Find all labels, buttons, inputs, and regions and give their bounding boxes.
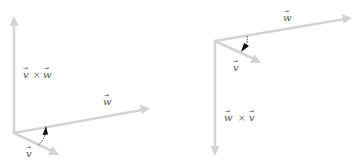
right-w-arrow: → [284,7,289,14]
left-cross-arrowhead [10,16,19,26]
left-w-arrowhead [140,105,150,115]
left-v-arrow: → [26,143,31,150]
right-cross-b-arrow: → [249,107,254,114]
cross-product-diagram: v → × w → w → v → w [0,0,358,166]
left-v-vector [14,133,52,151]
right-v-arrow: → [233,57,238,64]
right-v-label: v → [233,57,239,73]
right-w-vector [215,19,345,41]
right-cross-label: w → × v → [224,107,255,123]
left-w-arrow: → [104,91,109,98]
left-panel: v → × w → w → v → [10,16,151,159]
left-cross-a-arrow: → [23,64,28,71]
left-w-vector [14,110,142,133]
right-cross-operator: × [238,113,246,123]
right-cross-a-arrow: → [225,107,230,114]
right-rotation-arrowhead [241,43,249,52]
right-panel: w → v → w → × v → [211,7,353,156]
left-w-label: w → [103,91,112,107]
right-cross-arrowhead [211,146,220,156]
left-cross-b-arrow: → [44,64,49,71]
left-cross-operator: × [33,70,41,80]
right-w-label: w → [283,7,292,23]
left-cross-label: v → × w → [23,64,52,80]
left-v-label: v → [26,143,32,159]
right-w-arrowhead [342,14,352,24]
